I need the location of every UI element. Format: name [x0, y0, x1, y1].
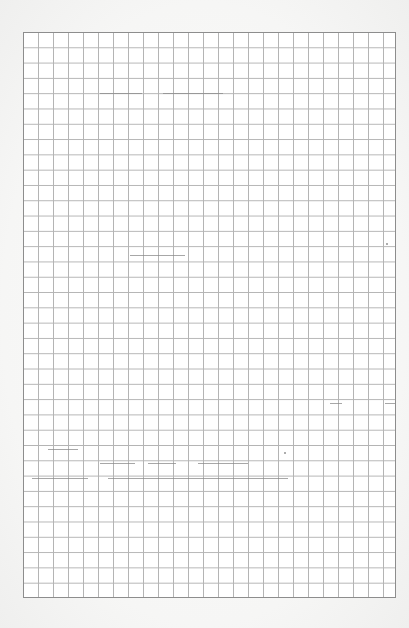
scan-artifact — [163, 93, 223, 94]
scan-artifact — [198, 463, 248, 464]
scan-artifact — [108, 478, 288, 479]
scan-artifact — [100, 93, 142, 94]
scan-speck — [386, 243, 388, 245]
scan-artifact — [148, 463, 176, 464]
scan-speck — [284, 452, 286, 454]
scan-artifact — [100, 463, 135, 464]
scan-artifact — [385, 403, 395, 404]
scanned-page-background — [0, 0, 409, 628]
scan-artifact — [130, 255, 185, 256]
graph-paper-grid — [23, 32, 396, 598]
scan-artifact — [32, 478, 88, 479]
scan-artifact — [48, 449, 78, 450]
scan-artifact — [330, 403, 342, 404]
